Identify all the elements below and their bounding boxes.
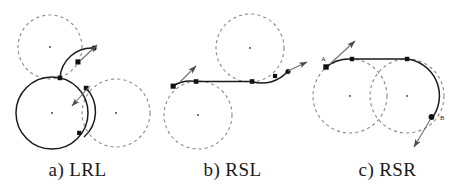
path-nodes-b	[171, 69, 291, 89]
tangent-node-2	[405, 57, 409, 61]
arc-right-end	[407, 59, 439, 118]
panel-caption-a: a) LRL	[0, 160, 155, 179]
tangent-node-3	[273, 74, 277, 78]
tangent-node-1	[194, 79, 199, 84]
panel-c-rsr: A B	[313, 41, 445, 147]
end-node	[429, 114, 435, 120]
point-label-a: A	[321, 55, 326, 62]
point-label-b: B	[440, 114, 445, 121]
panel-caption-c: c) RSR	[310, 160, 465, 179]
path-nodes-c	[323, 57, 434, 120]
panel-b-rsl	[164, 14, 307, 149]
panel-caption-b: b) RSL	[155, 160, 310, 179]
start-heading-arrow	[180, 66, 196, 82]
start-node	[323, 64, 328, 69]
arc-right-start	[173, 81, 196, 86]
end-node	[77, 131, 81, 135]
end-heading-arrow	[414, 120, 430, 147]
tangent-node-2	[58, 76, 63, 81]
tangent-node-1	[350, 57, 354, 61]
start-node	[171, 84, 176, 89]
tangent-node-2	[250, 79, 255, 84]
tangent-node-1	[75, 59, 80, 64]
panel-a-lrl	[16, 15, 150, 149]
end-heading-arrow	[288, 62, 307, 71]
dubins-path-figure: A B a) LRL b) RSL c) RSR	[0, 0, 465, 193]
circle-centers-c	[349, 95, 408, 97]
arc-right-start	[326, 59, 350, 67]
